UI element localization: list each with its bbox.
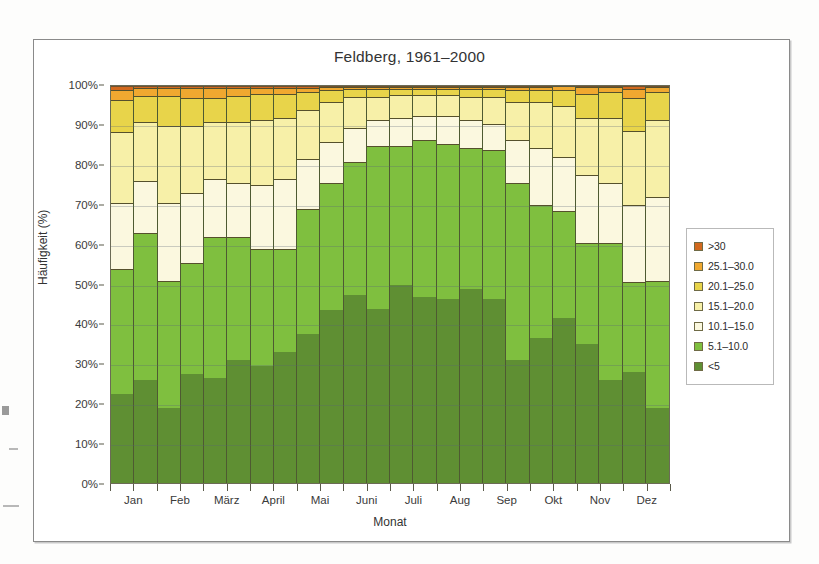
bar-segment	[623, 372, 645, 483]
stacked-bar	[297, 86, 320, 483]
y-tick-mark	[99, 364, 104, 365]
stacked-bar	[251, 86, 274, 483]
stacked-bar	[320, 86, 343, 483]
bar-segment	[134, 233, 156, 380]
bar-segment	[413, 95, 435, 117]
bar-segment	[297, 159, 319, 209]
stacked-bar	[390, 86, 413, 483]
legend-item[interactable]: <5	[694, 356, 767, 376]
legend-item[interactable]: 20.1–25.0	[694, 276, 767, 296]
bar-segment	[204, 88, 226, 98]
legend-item[interactable]: 25.1–30.0	[694, 256, 767, 276]
y-tick-mark	[99, 444, 104, 445]
legend-label: 25.1–30.0	[708, 260, 754, 272]
y-tick-mark	[99, 244, 104, 245]
x-tick-mark	[413, 484, 414, 491]
legend-item[interactable]: 5.1–10.0	[694, 336, 767, 356]
stacked-bar	[623, 86, 646, 483]
scan-artifact	[2, 406, 9, 415]
bar-segment	[204, 378, 226, 483]
bar-segment	[274, 94, 296, 118]
bar-segment	[646, 408, 669, 483]
bar-segment	[158, 126, 180, 203]
y-tick-label: 90%	[75, 119, 98, 131]
bar-segment	[204, 122, 226, 180]
legend-label: 20.1–25.0	[708, 280, 754, 292]
y-tick-label: 60%	[75, 239, 98, 251]
legend-swatch-icon	[694, 262, 703, 271]
bar-segment	[553, 90, 575, 106]
legend: >3025.1–30.020.1–25.015.1–20.010.1–15.05…	[686, 228, 774, 385]
x-tick-label: Jan	[124, 494, 143, 506]
legend-label: 10.1–15.0	[708, 320, 754, 332]
bar-segment	[530, 338, 552, 483]
stacked-bar	[506, 86, 529, 483]
x-tick-mark	[670, 484, 671, 491]
legend-item[interactable]: >30	[694, 236, 767, 256]
stacked-bar	[111, 86, 134, 483]
stacked-bar	[599, 86, 622, 483]
y-tick-label: 100%	[69, 79, 98, 91]
y-tick-mark	[99, 404, 104, 405]
bar-segment	[646, 281, 669, 408]
x-tick-mark	[390, 484, 391, 491]
x-tick-mark	[320, 484, 321, 491]
bar-segment	[506, 360, 528, 483]
bar-segment	[599, 92, 621, 118]
legend-label: 15.1–20.0	[708, 300, 754, 312]
x-tick-mark	[460, 484, 461, 491]
x-tick-mark	[367, 484, 368, 491]
x-tick-label: Sep	[496, 494, 516, 506]
bar-segment	[460, 89, 482, 97]
x-tick-label: März	[214, 494, 240, 506]
bar-segment	[344, 162, 366, 295]
bar-segment	[297, 92, 319, 110]
bar-segment	[227, 360, 249, 483]
x-tick-mark	[203, 484, 204, 491]
bar-segment	[623, 205, 645, 282]
stacked-bar	[344, 86, 367, 483]
bar-segment	[320, 142, 342, 184]
x-tick-label: Feb	[170, 494, 190, 506]
y-tick-label: 70%	[75, 199, 98, 211]
x-tick-label: April	[262, 494, 285, 506]
bar-segment	[576, 118, 598, 176]
stacked-bar	[646, 86, 669, 483]
bar-segment	[158, 96, 180, 126]
x-tick-mark	[623, 484, 624, 491]
bar-segment	[576, 87, 598, 94]
bar-segment	[320, 310, 342, 483]
bar-segment	[158, 408, 180, 483]
bar-segment	[297, 334, 319, 483]
y-tick-mark	[99, 164, 104, 165]
x-tick-label: Mai	[311, 494, 330, 506]
bar-segment	[274, 249, 296, 352]
y-tick-mark	[99, 324, 104, 325]
y-tick-mark	[99, 484, 104, 485]
bar-segment	[320, 183, 342, 310]
bar-segment	[320, 90, 342, 102]
bar-segment	[204, 179, 226, 237]
legend-item[interactable]: 15.1–20.0	[694, 296, 767, 316]
bar-segment	[344, 97, 366, 129]
bar-segment	[413, 116, 435, 140]
bar-segment	[599, 380, 621, 483]
y-tick-label: 0%	[81, 478, 98, 490]
legend-swatch-icon	[694, 282, 703, 291]
bar-segment	[530, 205, 552, 338]
bar-segment	[111, 394, 133, 483]
bar-segment	[390, 146, 412, 285]
bar-segment	[553, 318, 575, 483]
bar-segment	[134, 96, 156, 122]
bar-segment	[623, 98, 645, 132]
y-tick-label: 40%	[75, 318, 98, 330]
legend-swatch-icon	[694, 362, 703, 371]
bar-segment	[623, 282, 645, 373]
bar-segment	[181, 263, 203, 374]
x-tick-mark	[647, 484, 648, 491]
bar-segment	[506, 102, 528, 140]
y-tick-label: 80%	[75, 159, 98, 171]
legend-item[interactable]: 10.1–15.0	[694, 316, 767, 336]
bar-segment	[483, 89, 505, 97]
bar-segment	[483, 124, 505, 150]
